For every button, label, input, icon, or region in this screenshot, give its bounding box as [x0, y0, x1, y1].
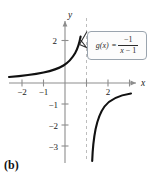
y-tick-label-2: 2	[53, 36, 58, 46]
graph-plot: −2 −1 2 2 −1 −2 −3 x y	[0, 0, 159, 177]
function-callout-box: g(x) = −1 x − 1	[87, 31, 147, 60]
figure-container: −2 −1 2 2 −1 −2 −3 x y g(x) = −1 x − 1 (…	[0, 0, 159, 177]
curve-left-branch	[9, 37, 81, 78]
function-name: g(x)	[96, 41, 109, 50]
x-tick-label-neg1: −1	[39, 87, 49, 97]
denominator-operator: −	[124, 46, 133, 55]
denominator-constant: 1	[132, 46, 136, 55]
fraction-numerator: −1	[122, 36, 135, 45]
y-axis-label: y	[67, 10, 73, 20]
y-tick-label-neg1: −1	[48, 100, 58, 110]
fraction-denominator: x − 1	[118, 46, 138, 55]
fraction: −1 x − 1	[118, 36, 138, 55]
x-axis-arrowhead	[131, 81, 137, 86]
curve-right-branch	[92, 94, 131, 162]
x-axis-label: x	[140, 78, 146, 88]
x-tick-label-2: 2	[106, 87, 111, 97]
x-tick-label-neg2: −2	[17, 87, 27, 97]
y-tick-label-neg2: −2	[48, 121, 58, 131]
callout-leader-line	[80, 32, 88, 48]
equals-sign: =	[112, 41, 117, 50]
function-formula: g(x) = −1 x − 1	[96, 36, 138, 55]
figure-caption: (b)	[4, 158, 19, 173]
y-axis-arrowhead	[63, 21, 68, 27]
y-tick-label-neg3: −3	[48, 142, 58, 152]
